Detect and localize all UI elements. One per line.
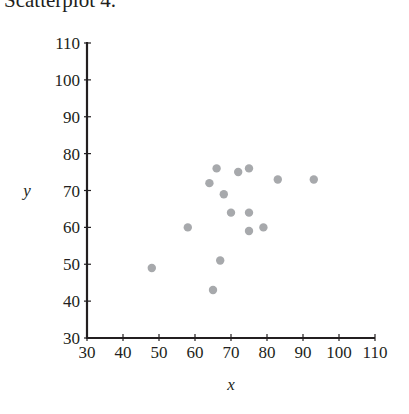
- data-point: [310, 175, 318, 183]
- data-point: [148, 264, 156, 272]
- x-tick-label: 30: [79, 343, 96, 362]
- y-axis-label: y: [21, 181, 31, 200]
- data-points: [148, 164, 318, 294]
- y-tick-label: 70: [63, 182, 80, 201]
- y-tick-label: 40: [63, 292, 80, 311]
- x-tick-label: 40: [115, 343, 132, 362]
- data-point: [212, 164, 220, 172]
- x-tick-label: 100: [326, 343, 352, 362]
- y-tick-label: 100: [55, 71, 81, 90]
- data-point: [234, 168, 242, 176]
- x-tick-label: 70: [223, 343, 240, 362]
- data-point: [245, 164, 253, 172]
- x-tick-label: 110: [363, 343, 388, 362]
- data-point: [184, 223, 192, 231]
- y-tick-label: 80: [63, 145, 80, 164]
- y-tick-label: 110: [55, 34, 80, 53]
- y-tick-label: 50: [63, 255, 80, 274]
- x-tick-label: 50: [151, 343, 168, 362]
- data-point: [259, 223, 267, 231]
- x-tick-label: 80: [259, 343, 276, 362]
- data-point: [205, 179, 213, 187]
- data-point: [216, 256, 224, 264]
- y-tick-label: 90: [63, 108, 80, 127]
- x-tick-label: 60: [187, 343, 204, 362]
- x-tick-label: 90: [295, 343, 312, 362]
- x-axis-label: x: [226, 375, 235, 394]
- y-tick-label: 60: [63, 218, 80, 237]
- data-point: [227, 208, 235, 216]
- data-point: [209, 286, 217, 294]
- y-tick-label: 30: [63, 329, 80, 348]
- y-axis: 30405060708090100110: [55, 34, 92, 348]
- data-point: [245, 227, 253, 235]
- scatterplot: 30405060708090100110 3040506070809010011…: [0, 0, 409, 414]
- data-point: [245, 208, 253, 216]
- data-point: [220, 190, 228, 198]
- x-axis: 30405060708090100110: [79, 334, 388, 362]
- data-point: [274, 175, 282, 183]
